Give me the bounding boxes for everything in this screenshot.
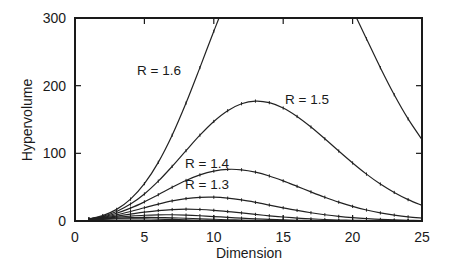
series-label-r15: R = 1.5	[285, 92, 329, 107]
x-tick-label: 25	[414, 229, 430, 245]
y-tick-label: 300	[43, 10, 67, 26]
series-line-14	[89, 169, 422, 219]
series-label-r16: R = 1.6	[137, 63, 181, 78]
y-axis: 0 100 200 300 Hypervolume	[19, 10, 66, 229]
x-axis: 0 5 10 15 20 25 Dimension	[71, 229, 430, 261]
series-label-r14: R = 1.4	[185, 156, 229, 171]
series-label-r13: R = 1.3	[185, 177, 229, 192]
x-tick-label: 15	[275, 229, 291, 245]
y-tick-label: 0	[58, 213, 66, 229]
x-tick-label: 20	[345, 229, 361, 245]
axis-ticks	[75, 18, 422, 221]
y-tick-label: 100	[43, 145, 67, 161]
plot-area	[89, 0, 422, 223]
hypervolume-chart: 0 100 200 300 Hypervolume 0 5 10 15 20 2…	[0, 0, 454, 277]
x-tick-label: 5	[141, 229, 149, 245]
x-axis-title: Dimension	[216, 245, 282, 261]
series-line-16	[89, 0, 422, 219]
x-tick-label: 10	[206, 229, 222, 245]
y-axis-title: Hypervolume	[19, 79, 35, 162]
plot-frame	[75, 18, 422, 221]
x-tick-label: 0	[71, 229, 79, 245]
y-tick-label: 200	[43, 78, 67, 94]
